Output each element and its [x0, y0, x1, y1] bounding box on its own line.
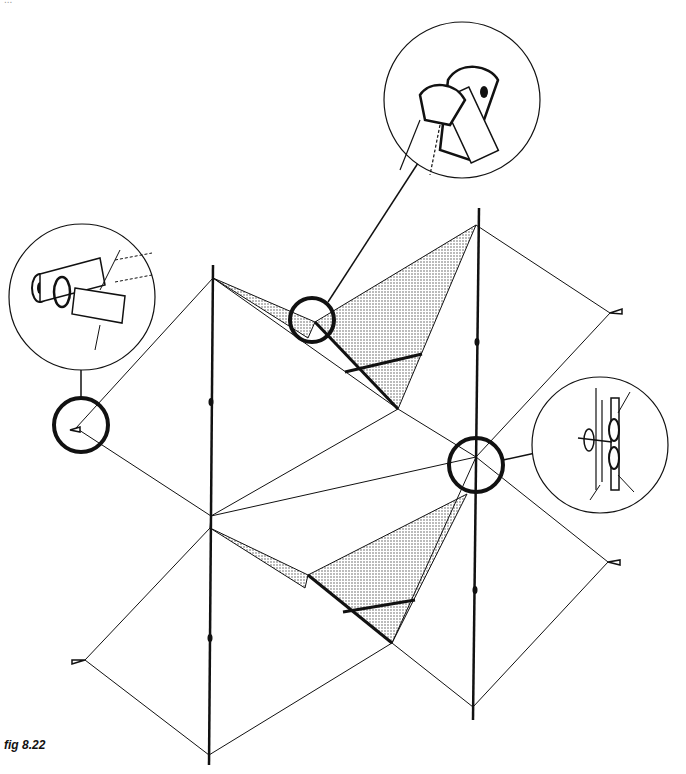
detail-top-right-icon	[384, 22, 540, 178]
frame-lines	[76, 225, 610, 755]
figure-caption: fig 8.22	[4, 738, 45, 752]
lower-sail-panel	[210, 494, 467, 643]
detail-right-icon	[532, 377, 668, 513]
detail-left-icon	[9, 224, 155, 370]
upper-sail-panel	[213, 225, 476, 409]
kite-assembly-diagram	[0, 0, 686, 774]
